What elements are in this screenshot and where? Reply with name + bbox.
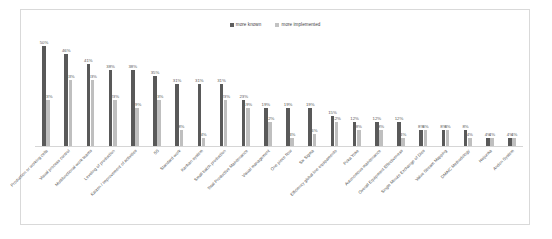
bar-group: 31%23% bbox=[213, 36, 235, 146]
bar-group: 4%4% bbox=[501, 36, 523, 146]
bar-value-label: 15% bbox=[328, 111, 337, 115]
bar-value-label: 23% bbox=[239, 95, 248, 99]
bar-more-known: 35% bbox=[153, 76, 157, 146]
category-axis-labels: Production or working cellsVisual proces… bbox=[35, 148, 523, 220]
bar-more-implemented: 8% bbox=[446, 130, 450, 146]
bar-more-implemented: 8% bbox=[357, 130, 361, 146]
category-label: Six Sigma bbox=[299, 149, 315, 165]
bar-value-label: 8% bbox=[462, 125, 468, 129]
bar-more-known: 19% bbox=[264, 108, 268, 146]
bar-group: 31%8% bbox=[168, 36, 190, 146]
bar-value-label: 23% bbox=[221, 95, 230, 99]
bar-more-known: 4% bbox=[508, 138, 512, 146]
bar-value-label: 31% bbox=[173, 79, 182, 83]
bar-value-label: 12% bbox=[395, 117, 404, 121]
bar-value-label: 4% bbox=[289, 133, 295, 137]
bar-value-label: 46% bbox=[62, 49, 71, 53]
bar-value-label: 23% bbox=[110, 95, 119, 99]
bar-group: 38%19% bbox=[124, 36, 146, 146]
bar-more-implemented: 19% bbox=[135, 108, 139, 146]
bar-group: 35%23% bbox=[146, 36, 168, 146]
bar-more-known: 31% bbox=[175, 84, 179, 146]
bar-value-label: 19% bbox=[284, 103, 293, 107]
bar-value-label: 8% bbox=[178, 125, 184, 129]
bar-value-label: 8% bbox=[356, 125, 362, 129]
bar-group: 8%4% bbox=[457, 36, 479, 146]
bar-group: 8%8% bbox=[434, 36, 456, 146]
legend-label-more-known: more known bbox=[236, 22, 262, 27]
bar-more-known: 4% bbox=[486, 138, 490, 146]
bar-more-implemented: 23% bbox=[46, 100, 50, 146]
bar-value-label: 19% bbox=[306, 103, 315, 107]
bar-more-known: 46% bbox=[64, 54, 68, 146]
legend-swatch-more-known bbox=[230, 23, 234, 27]
bar-group: 23%19% bbox=[235, 36, 257, 146]
bar-more-implemented: 8% bbox=[379, 130, 383, 146]
bar-value-label: 4% bbox=[400, 133, 406, 137]
bar-more-implemented: 4% bbox=[202, 138, 206, 146]
bar-group: 19%12% bbox=[257, 36, 279, 146]
bar-more-implemented: 33% bbox=[91, 80, 95, 146]
bar-value-label: 4% bbox=[511, 133, 517, 137]
bar-value-label: 19% bbox=[244, 103, 253, 107]
bar-group: 12%8% bbox=[368, 36, 390, 146]
bar-more-implemented: 19% bbox=[246, 108, 250, 146]
bar-value-label: 12% bbox=[332, 117, 341, 121]
bar-more-implemented: 4% bbox=[490, 138, 494, 146]
bar-value-label: 50% bbox=[40, 41, 49, 45]
bar-value-label: 19% bbox=[133, 103, 142, 107]
bar-more-known: 8% bbox=[419, 130, 423, 146]
bar-more-implemented: 23% bbox=[113, 100, 117, 146]
bar-value-label: 12% bbox=[373, 117, 382, 121]
bar-group: 50%23% bbox=[35, 36, 57, 146]
bar-value-label: 8% bbox=[378, 125, 384, 129]
bar-value-label: 41% bbox=[84, 59, 93, 63]
bar-value-label: 23% bbox=[44, 95, 53, 99]
bar-more-implemented: 4% bbox=[401, 138, 405, 146]
category-label: 5S bbox=[153, 149, 160, 156]
legend-item-more-implemented: more implemented bbox=[275, 22, 320, 27]
bar-value-label: 4% bbox=[489, 133, 495, 137]
bar-value-label: 31% bbox=[195, 79, 204, 83]
category-label: Total Productive Maintenance bbox=[207, 149, 249, 191]
bar-more-implemented: 4% bbox=[290, 138, 294, 146]
bar-more-known: 38% bbox=[109, 70, 113, 146]
category-label: Poka Yoke bbox=[343, 149, 360, 166]
bar-more-implemented: 33% bbox=[69, 80, 73, 146]
bar-value-label: 35% bbox=[151, 71, 160, 75]
bar-group: 15%12% bbox=[323, 36, 345, 146]
category-label: Andon System bbox=[493, 149, 515, 171]
bar-value-label: 12% bbox=[350, 117, 359, 121]
bar-more-implemented: 6% bbox=[313, 134, 317, 146]
bar-value-label: 4% bbox=[200, 133, 206, 137]
bar-more-known: 8% bbox=[442, 130, 446, 146]
category-label: Production or working cells bbox=[10, 149, 49, 188]
bar-more-known: 19% bbox=[286, 108, 290, 146]
chart-frame: more known more implemented 50%23%46%33%… bbox=[20, 9, 530, 225]
legend-label-more-implemented: more implemented bbox=[282, 22, 321, 27]
bar-group: 4%4% bbox=[479, 36, 501, 146]
category-label: Heijunka bbox=[478, 149, 493, 164]
bar-value-label: 31% bbox=[217, 79, 226, 83]
bar-more-implemented: 4% bbox=[468, 138, 472, 146]
bar-value-label: 33% bbox=[66, 75, 75, 79]
bar-value-label: 33% bbox=[88, 75, 97, 79]
bar-value-label: 8% bbox=[422, 125, 428, 129]
bar-group: 8%8% bbox=[412, 36, 434, 146]
category-axis-line bbox=[35, 146, 523, 147]
bar-more-implemented: 23% bbox=[224, 100, 228, 146]
bar-group: 19%4% bbox=[279, 36, 301, 146]
category-label: One piece flow bbox=[270, 149, 293, 172]
bar-more-implemented: 4% bbox=[512, 138, 516, 146]
bar-more-known: 38% bbox=[131, 70, 135, 146]
category-label: Kaizen / Improvement of activities bbox=[90, 149, 138, 197]
bar-groups: 50%23%46%33%41%33%38%23%38%19%35%23%31%8… bbox=[35, 36, 523, 146]
bar-more-implemented: 8% bbox=[424, 130, 428, 146]
bar-group: 19%6% bbox=[301, 36, 323, 146]
chart-legend: more known more implemented bbox=[21, 22, 529, 27]
bar-more-implemented: 12% bbox=[335, 122, 339, 146]
category-label: Efficiency global line equipamento bbox=[289, 149, 337, 197]
bar-group: 31%4% bbox=[190, 36, 212, 146]
bar-value-label: 4% bbox=[467, 133, 473, 137]
bar-more-implemented: 23% bbox=[157, 100, 161, 146]
